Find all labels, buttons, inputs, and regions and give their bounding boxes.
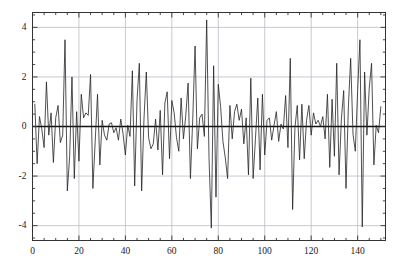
chart-container: -4-2024 020406080100120140 [0, 0, 407, 270]
x-tick-label: 100 [258, 246, 273, 256]
x-tick-label: 60 [167, 246, 177, 256]
chart-background [0, 0, 407, 270]
y-tick-label: 4 [22, 22, 27, 32]
x-tick-label: 0 [30, 246, 35, 256]
line-chart: -4-2024 020406080100120140 [0, 0, 407, 270]
x-tick-label: 140 [351, 246, 366, 256]
y-tick-label: -2 [19, 171, 27, 181]
x-tick-label: 120 [304, 246, 319, 256]
x-tick-label: 40 [121, 246, 131, 256]
y-tick-label: 0 [22, 121, 27, 131]
y-tick-label: 2 [22, 72, 27, 82]
x-tick-label: 20 [74, 246, 84, 256]
x-tick-label: 80 [214, 246, 224, 256]
y-tick-label: -4 [19, 220, 27, 230]
